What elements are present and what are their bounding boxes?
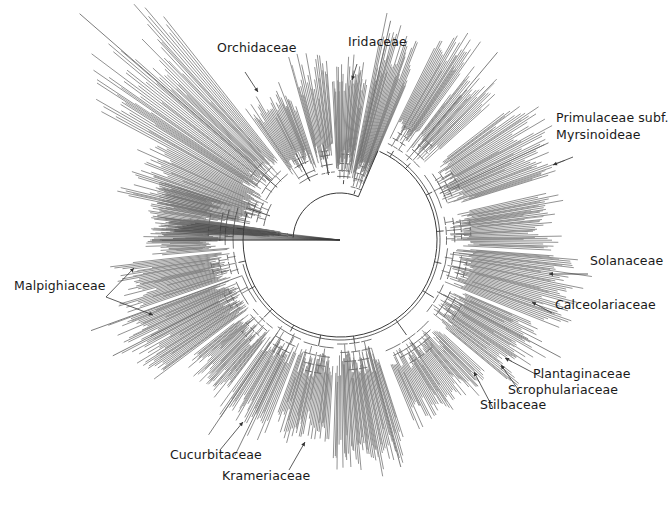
clade-gentianales	[437, 193, 563, 250]
clade-solanaceae	[435, 248, 592, 327]
clade-monocot-left-b	[92, 4, 288, 200]
arrow-malpighiaceae	[106, 268, 134, 297]
arrow-krameriaceae	[289, 442, 305, 470]
label-orchidaceae: Orchidaceae	[217, 40, 297, 55]
outer-backbone-arc-2	[243, 152, 440, 340]
label-primulaceae-myrsinoideae: Primulaceae subf.Myrsinoideae	[556, 109, 669, 143]
arrowhead-icon	[254, 88, 258, 92]
label-krameriaceae: Krameriaceae	[222, 468, 310, 483]
phylogenetic-tree	[0, 0, 671, 521]
label-iridaceae: Iridaceae	[348, 34, 407, 49]
clade-rosid-bottom-right	[333, 336, 403, 476]
label-cucurbitaceae: Cucurbitaceae	[170, 447, 262, 462]
label-solanaceae: Solanaceae	[590, 253, 663, 268]
label-stilbaceae: Stilbaceae	[480, 397, 546, 412]
label-calceolariaceae: Calceolariaceae	[555, 297, 656, 312]
label-scrophulariaceae: Scrophulariaceae	[508, 382, 618, 397]
inner-backbone-arc	[293, 193, 358, 238]
label-malpighiaceae: Malpighiaceae	[14, 278, 106, 293]
label-plantaginaceae: Plantaginaceae	[533, 366, 630, 381]
